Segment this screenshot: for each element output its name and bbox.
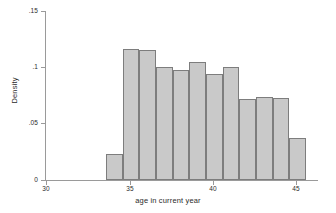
y-tick-mark (41, 123, 45, 124)
y-tick-mark (41, 11, 45, 12)
y-axis-line (45, 11, 46, 181)
y-tick-label: .05 (29, 119, 38, 126)
histogram-bar (256, 97, 273, 180)
histogram-bar (123, 49, 140, 180)
x-axis-line (45, 180, 318, 181)
y-axis-title: Density (10, 61, 19, 121)
histogram-bar (173, 70, 190, 180)
x-tick-label: 35 (126, 185, 133, 192)
histogram-figure: .15 .1 .05 0 30 35 40 45 Density age in … (0, 0, 336, 213)
histogram-bar (239, 99, 256, 180)
y-tick-label: .1 (32, 63, 38, 70)
histogram-bar (139, 50, 156, 180)
histogram-bar (223, 67, 240, 180)
histogram-bar (273, 98, 290, 180)
y-tick-label: .15 (29, 7, 38, 14)
histogram-bar (156, 67, 173, 180)
histogram-bar (289, 138, 306, 180)
y-tick-mark (41, 180, 45, 181)
plot-area: .15 .1 .05 0 30 35 40 45 Density age in … (0, 0, 336, 213)
y-tick-label: 0 (34, 176, 38, 183)
histogram-bar (206, 74, 223, 180)
x-tick-label: 45 (292, 185, 299, 192)
x-tick-label: 40 (209, 185, 216, 192)
histogram-bar (106, 154, 123, 180)
y-tick-mark (41, 67, 45, 68)
histogram-bar (189, 62, 206, 180)
x-axis-title: age in current year (0, 196, 336, 205)
x-tick-label: 30 (42, 185, 49, 192)
